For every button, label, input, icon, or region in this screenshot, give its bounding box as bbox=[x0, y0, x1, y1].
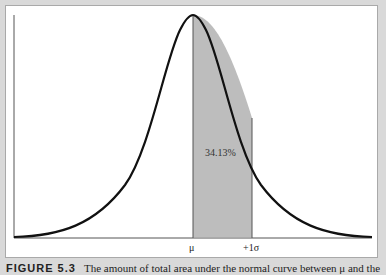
shaded-percent-label: 34.13% bbox=[205, 147, 236, 158]
x-tick-plus-one-sigma: +1σ bbox=[243, 242, 259, 253]
normal-curve-chart bbox=[0, 0, 386, 275]
x-tick-mu: μ bbox=[189, 242, 194, 253]
shaded-area bbox=[193, 15, 252, 237]
caption-text: The amount of total area under the norma… bbox=[84, 262, 380, 274]
figure-caption: FIGURE 5.3 The amount of total area unde… bbox=[6, 262, 386, 274]
figure-number: FIGURE 5.3 bbox=[6, 262, 76, 274]
